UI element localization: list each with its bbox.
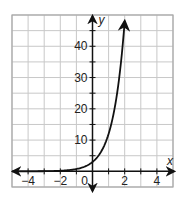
y-tick-label: 30 <box>74 71 88 85</box>
y-tick-label: 20 <box>74 102 88 116</box>
x-tick-label: −2 <box>53 174 67 188</box>
x-axis-label: x <box>166 154 174 168</box>
axes <box>13 16 174 191</box>
x-tick-label: 4 <box>154 174 161 188</box>
exponential-graph: −4−202410203040 x y <box>0 0 179 202</box>
y-tick-label: 10 <box>74 133 88 147</box>
exponential-curve <box>12 21 125 171</box>
y-tick-label: 40 <box>74 39 88 53</box>
y-axis-label: y <box>98 13 106 27</box>
x-tick-label: −4 <box>21 174 35 188</box>
x-tick-label: 0 <box>81 174 88 188</box>
x-tick-label: 2 <box>121 174 128 188</box>
